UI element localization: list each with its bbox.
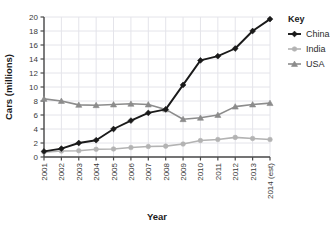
data-point-marker [292,47,297,52]
y-tick-label: 6 [34,111,39,120]
y-tick-label: 8 [34,97,39,106]
data-point-marker [94,147,99,152]
x-tick-label: 2002 [57,162,66,180]
data-point-marker [181,142,186,147]
legend-item-label: USA [306,59,325,69]
y-tick-label: 0 [34,153,39,162]
chart-background [0,0,334,232]
x-tick-label: 2012 [231,162,240,180]
y-tick-label: 20 [29,13,38,22]
data-point-marker [233,135,238,140]
data-point-marker [268,137,273,142]
y-tick-label: 4 [34,125,39,134]
data-point-marker [146,144,151,149]
x-tick-label: 2006 [127,162,136,180]
chart-canvas: 02468101214161820 2001200220032004200520… [0,0,334,232]
y-tick-label: 10 [29,83,38,92]
data-point-marker [111,147,116,152]
x-tick-label: 2005 [110,162,119,180]
line-chart-figure: 02468101214161820 2001200220032004200520… [0,0,334,232]
y-tick-label: 2 [34,139,39,148]
data-point-marker [198,138,203,143]
x-tick-label: 2010 [196,162,205,180]
x-tick-label: 2008 [162,162,171,180]
data-point-marker [76,148,81,153]
data-point-marker [129,145,134,150]
y-tick-label: 16 [29,41,38,50]
legend-item-label: India [306,44,326,54]
y-tick-label: 14 [29,55,38,64]
x-tick-label: 2007 [144,162,153,180]
x-tick-label: 2013 [249,162,258,180]
legend-item-label: China [306,29,330,39]
x-axis-title: Year [147,211,167,222]
y-tick-label: 18 [29,27,38,36]
legend-title: Key [288,14,305,24]
x-tick-label: 2014 (est) [266,163,275,199]
x-tick-label: 2011 [214,162,223,180]
data-point-marker [216,137,221,142]
data-point-marker [163,144,168,149]
x-tick-label: 2004 [92,162,101,180]
y-axis-title: Cars (millions) [3,54,14,120]
x-tick-label: 2003 [75,162,84,180]
x-tick-label: 2001 [40,162,49,180]
y-tick-label: 12 [29,69,38,78]
x-tick-label: 2009 [179,162,188,180]
data-point-marker [250,136,255,141]
